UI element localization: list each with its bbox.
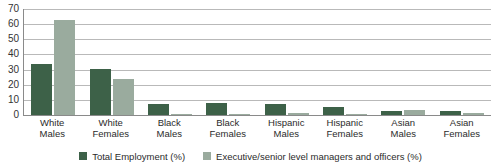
x-label-line-2: Females: [82, 128, 141, 139]
legend-label: Total Employment (%): [92, 151, 185, 162]
x-label-line-1: Black: [158, 117, 181, 128]
x-axis-category-label: AsianFemales: [433, 117, 492, 145]
bar: [229, 114, 250, 116]
y-tick-label: 0: [13, 110, 19, 120]
y-tick-label: 30: [8, 65, 19, 75]
x-label-line-1: Hispanic: [327, 117, 363, 128]
x-axis-category-label: BlackFemales: [199, 117, 258, 145]
bar-group: [24, 9, 82, 115]
bar-chart: 706050403020100 WhiteMalesWhiteFemalesBl…: [0, 0, 501, 166]
x-label-line-1: White: [40, 117, 64, 128]
bars-layer: [24, 9, 491, 115]
x-axis-category-label: HispanicFemales: [316, 117, 375, 145]
x-axis-category-label: HispanicMales: [257, 117, 316, 145]
y-tick-label: 10: [8, 95, 19, 105]
bar: [323, 107, 344, 115]
bar-group: [199, 9, 257, 115]
bar: [148, 104, 169, 115]
x-axis-category-label: WhiteFemales: [82, 117, 141, 145]
x-label-line-1: Asian: [450, 117, 474, 128]
x-label-line-1: Black: [216, 117, 239, 128]
x-label-line-2: Females: [433, 128, 492, 139]
x-axis-category-label: AsianMales: [374, 117, 433, 145]
bar: [404, 110, 425, 115]
chart-legend: Total Employment (%)Executive/senior lev…: [0, 148, 501, 164]
x-label-line-1: White: [99, 117, 123, 128]
legend-item[interactable]: Executive/senior level managers and offi…: [203, 151, 422, 162]
legend-swatch-icon: [79, 152, 87, 160]
y-tick-label: 60: [8, 19, 19, 29]
x-axis-category-label: BlackMales: [140, 117, 199, 145]
legend-label: Executive/senior level managers and offi…: [216, 151, 422, 162]
bar-group: [141, 9, 199, 115]
bar-group: [316, 9, 374, 115]
legend-item[interactable]: Total Employment (%): [79, 151, 185, 162]
y-tick-label: 70: [8, 4, 19, 14]
x-label-line-1: Asian: [391, 117, 415, 128]
bar: [381, 111, 402, 115]
bar: [265, 104, 286, 115]
bar-group: [433, 9, 491, 115]
bar: [440, 111, 461, 115]
bar-group: [374, 9, 432, 115]
bar: [206, 103, 227, 115]
x-label-line-2: Females: [316, 128, 375, 139]
bar: [288, 113, 309, 115]
x-axis: WhiteMalesWhiteFemalesBlackMalesBlackFem…: [23, 117, 491, 145]
bar-group: [258, 9, 316, 115]
bar: [463, 113, 484, 115]
bar: [54, 20, 75, 115]
x-label-line-2: Males: [23, 128, 82, 139]
bar: [171, 114, 192, 116]
bar-group: [82, 9, 140, 115]
x-label-line-2: Males: [140, 128, 199, 139]
bar: [31, 64, 52, 115]
y-tick-label: 50: [8, 34, 19, 44]
gridline: [24, 115, 491, 116]
x-axis-category-label: WhiteMales: [23, 117, 82, 145]
legend-swatch-icon: [203, 152, 211, 160]
bar: [113, 79, 134, 115]
y-axis: 706050403020100: [0, 0, 22, 124]
plot-area: [23, 9, 491, 116]
y-tick-label: 20: [8, 80, 19, 90]
bar: [346, 114, 367, 116]
x-label-line-2: Females: [199, 128, 258, 139]
plot-wrapper: 706050403020100: [0, 0, 501, 124]
x-label-line-1: Hispanic: [268, 117, 304, 128]
x-label-line-2: Males: [257, 128, 316, 139]
x-label-line-2: Males: [374, 128, 433, 139]
bar: [90, 69, 111, 115]
y-tick-label: 40: [8, 49, 19, 59]
